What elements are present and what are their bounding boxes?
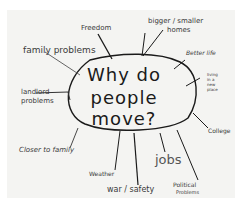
branch-better-life: Better life — [186, 50, 216, 56]
branch-homes: homes — [167, 27, 191, 34]
branch-family-problems: family problems — [23, 46, 96, 55]
branch-college: College — [208, 128, 230, 134]
branch-political: Political — [173, 182, 196, 188]
branch-jobs: jobs — [155, 153, 182, 166]
center-line-2: people move? — [62, 87, 186, 129]
branch-landlord-problems: problems — [21, 98, 54, 105]
branch-bigger-smaller: bigger / smaller — [148, 18, 203, 25]
branch-landlord: landlord — [21, 89, 50, 96]
branch-political-problems: Problems — [176, 190, 199, 195]
branch-living-new-place: living in a new place — [207, 72, 221, 92]
branch-closer-to-family: Closer to family — [19, 147, 74, 154]
central-question: Why do people move? — [62, 60, 186, 124]
center-line-1: Why do — [62, 64, 186, 85]
branch-freedom: Freedom — [81, 25, 111, 32]
branch-weather: Weather — [89, 171, 114, 177]
branch-war-safety: war / safety — [107, 186, 154, 194]
